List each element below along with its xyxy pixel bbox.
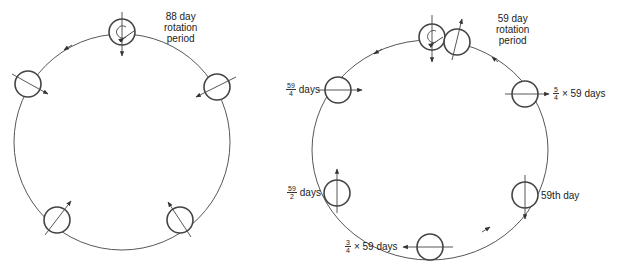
fraction: 59 4 [286,82,296,97]
planet-top-after-orbit [444,19,470,60]
fraction: 59 2 [287,185,297,200]
planet-59-4-days [318,77,362,103]
right-title: 59 day rotation period [496,13,529,46]
orbit-direction-arrow [482,227,490,232]
left-title: 88 day rotation period [164,11,197,44]
planet-59th-day [512,175,538,219]
label-59-4-days: 59 4 days [286,82,320,97]
planet-top [109,12,135,56]
right-orbit-path [312,40,548,260]
fraction: 5 4 [553,86,559,101]
label-59th-day: 59th day [541,190,579,201]
right-title-line-3: period [496,35,529,46]
planet-bottom-left [44,201,71,235]
left-title-line-1: 88 day [164,11,197,22]
orbit-direction-arrow [64,45,72,50]
planet-right [196,74,236,100]
left-title-line-2: rotation [164,22,197,33]
right-title-line-2: rotation [496,24,529,35]
label-5-4-x-59-days: 5 4 × 59 days [553,86,606,101]
label-59-2-days: 59 2 days [287,185,321,200]
planet-59-2-days [324,169,350,213]
planet-top-start [419,15,445,62]
right-title-line-1: 59 day [496,13,529,24]
right-orbit-diagram [312,15,549,260]
fraction: 3 4 [345,239,351,254]
left-title-line-3: period [164,33,197,44]
planet-5-4-x-59-days [505,81,549,107]
orbit-direction-arrow [374,49,382,54]
label-3-4-x-59-days: 3 4 × 59 days [345,239,398,254]
left-orbit-diagram [12,12,236,250]
planet-bottom-right [167,202,193,237]
planet-left [12,71,48,97]
planet-3-4-x-59-days [403,234,453,260]
